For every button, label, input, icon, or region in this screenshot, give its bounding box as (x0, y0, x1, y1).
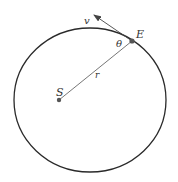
orbit-diagram: S E v r θ (0, 0, 178, 182)
orbit-svg: S E v r θ (0, 0, 178, 182)
sun-label: S (56, 86, 64, 99)
radius-label: r (95, 70, 100, 80)
angle-label: θ (116, 38, 122, 49)
velocity-label: v (84, 15, 90, 26)
body-point (129, 38, 134, 43)
body-label: E (135, 28, 144, 41)
orbit-ellipse (14, 28, 166, 172)
